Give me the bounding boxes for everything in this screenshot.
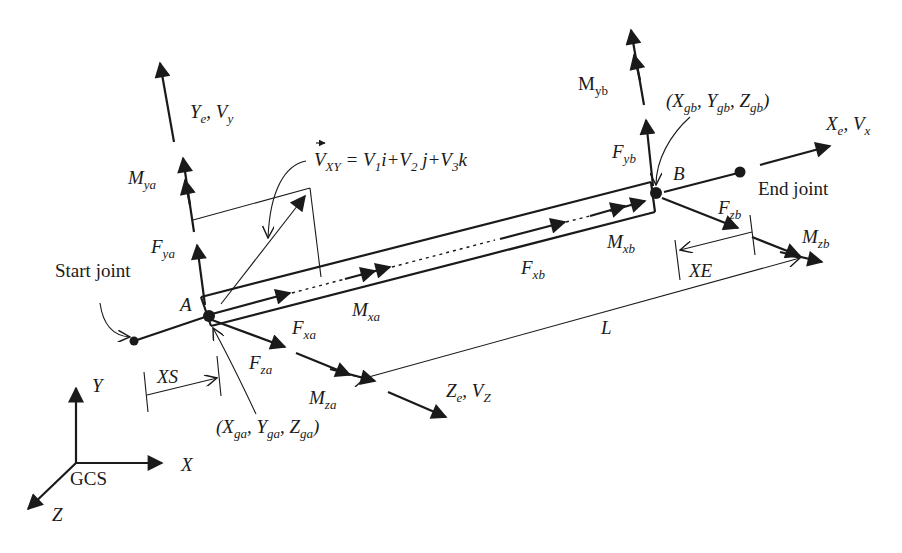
beam-bottom-edge <box>211 212 655 326</box>
vector-eq-text: VXY = V1i+V2 j+V3k <box>314 149 467 174</box>
xs-ext-left <box>144 372 148 412</box>
gcs-z-arrow <box>28 463 76 509</box>
start-joint-node <box>130 337 139 346</box>
local-x-axis-arrow <box>760 146 830 165</box>
M-xa-arrow-1 <box>212 293 290 314</box>
F-za-label: Fza <box>248 352 273 377</box>
local-z-axis-arrow <box>388 392 446 417</box>
global-coordinate-system <box>28 388 162 509</box>
beam-element-diagram: Ye, Vy VXY = V1i+V2 j+V3k Mya Fya Start … <box>0 0 902 553</box>
XS-label: XS <box>156 366 179 387</box>
F-yb-label: Fyb <box>611 141 636 166</box>
point-B-label: B <box>673 163 685 184</box>
beam-body <box>201 182 655 326</box>
M-xb-arrow-2 <box>610 201 645 211</box>
coord-b-label: (Xgb, Ygb, Zgb) <box>666 90 769 115</box>
L-label: L <box>600 317 612 338</box>
vxy-leader <box>268 161 306 238</box>
end-joint-node <box>735 167 746 178</box>
F-ya-label: Fya <box>150 236 175 261</box>
vxy-box-top <box>193 188 310 220</box>
gcs-label: GCS <box>70 468 107 489</box>
start-joint-leader <box>100 303 130 337</box>
F-yb-arrow <box>646 120 653 186</box>
axial-dashed-3 <box>566 216 590 222</box>
M-yb-label: Myb <box>578 73 608 98</box>
M-ya-label: Mya <box>127 167 157 192</box>
coord-a-label: (Xga, Yga, Zga) <box>216 416 319 441</box>
xe-ext-right <box>750 215 755 255</box>
xs-ext-right <box>217 356 221 396</box>
M-xa-label: Mxa <box>351 299 381 324</box>
M-zb-label: Mzb <box>801 226 830 251</box>
XE-label: XE <box>688 260 713 281</box>
xe-dim-line <box>680 232 752 250</box>
local-x-axis-label: Xe, Vx <box>825 113 871 138</box>
end-joint-label: End joint <box>758 178 829 199</box>
xe-ext-left <box>675 240 680 280</box>
dimension-XS <box>144 356 221 412</box>
gcs-z-label: Z <box>52 504 63 525</box>
gcs-x-label: X <box>180 454 194 475</box>
M-za-arrow-2 <box>330 369 375 381</box>
point-A-label: A <box>178 294 192 315</box>
dimension-L <box>365 258 800 378</box>
F-za-arrow <box>212 320 285 347</box>
vector-equation: VXY = V1i+V2 j+V3k <box>314 143 467 174</box>
start-joint-label: Start joint <box>55 260 131 281</box>
local-z-axis-label: Ze, VZ <box>446 380 491 405</box>
M-xb-label: Mxb <box>606 231 636 256</box>
M-zb-arrow-2 <box>780 252 822 262</box>
M-za-label: Mza <box>308 387 337 412</box>
local-y-axis-arrow <box>160 63 174 142</box>
point-B-node <box>650 187 662 199</box>
F-xb-arrow <box>500 222 565 239</box>
M-xa-arrow-3 <box>360 267 390 275</box>
gcs-y-label: Y <box>92 375 105 396</box>
F-xa-label: Fxa <box>291 317 316 342</box>
l-dim-line <box>365 258 800 378</box>
axial-arrows <box>212 201 645 314</box>
F-xb-label: Fxb <box>520 257 545 282</box>
vxy-arrow <box>221 196 305 304</box>
axial-dashed-1 <box>292 279 345 293</box>
start-rigid-offset <box>134 316 208 341</box>
M-zb-arrow-1 <box>752 237 800 256</box>
vxy-box-side <box>310 188 321 277</box>
local-y-axis-label: Ye, Vy <box>190 101 233 126</box>
dimension-XE <box>675 215 755 280</box>
F-zb-label: Fzb <box>717 197 742 222</box>
